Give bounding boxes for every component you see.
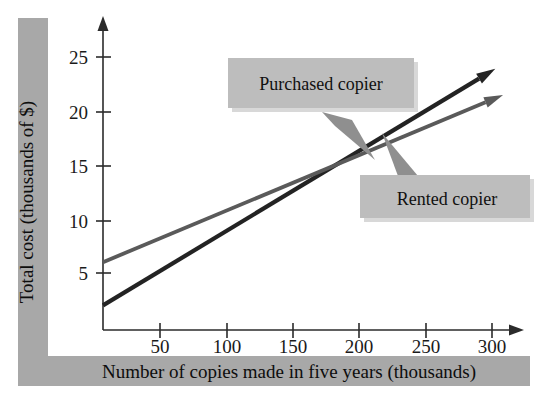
y-axis-title: Total cost (thousands of $) <box>16 101 38 303</box>
x-tick-label-250: 250 <box>412 336 441 357</box>
x-tick-label-100: 100 <box>213 336 242 357</box>
y-tick-label-10: 10 <box>69 211 88 232</box>
callout-purchased-label: Purchased copier <box>259 74 382 94</box>
x-tick-label-200: 200 <box>345 336 374 357</box>
x-axis-title: Number of copies made in five years (tho… <box>102 361 476 383</box>
callout-rented-label: Rented copier <box>397 189 497 209</box>
y-tick-label-20: 20 <box>69 102 88 123</box>
x-tick-label-150: 150 <box>279 336 308 357</box>
x-tick-label-50: 50 <box>151 336 170 357</box>
chart-canvas: Total cost (thousands of $) Number of co… <box>0 0 544 410</box>
figure-container: Total cost (thousands of $) Number of co… <box>0 0 544 410</box>
y-tick-label-5: 5 <box>79 263 89 284</box>
x-tick-label-300: 300 <box>478 336 507 357</box>
y-tick-label-25: 25 <box>69 47 88 68</box>
y-tick-label-15: 15 <box>69 156 88 177</box>
